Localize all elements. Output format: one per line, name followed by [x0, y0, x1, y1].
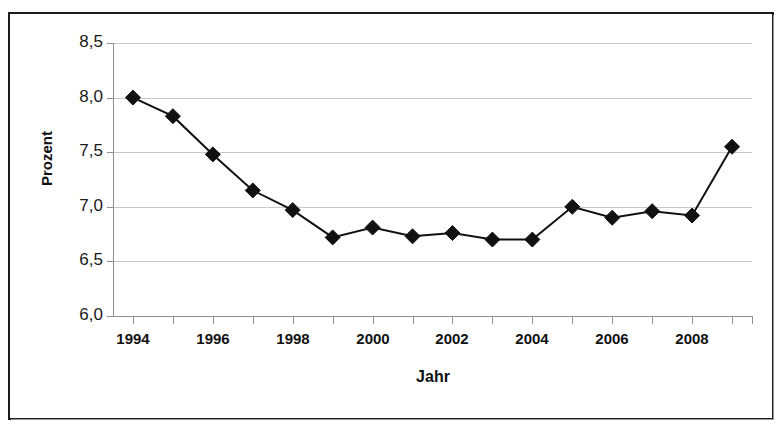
data-point-marker — [605, 210, 620, 225]
data-series-layer — [0, 0, 782, 434]
data-point-marker — [445, 226, 460, 241]
series-line — [133, 98, 732, 240]
data-point-marker — [405, 229, 420, 244]
data-point-marker — [485, 232, 500, 247]
chart-screenshot: 8,58,07,57,06,56,01994199619982000200220… — [0, 0, 782, 434]
data-point-marker — [645, 204, 660, 219]
data-point-marker — [725, 139, 740, 154]
data-point-marker — [365, 220, 380, 235]
data-point-marker — [285, 203, 300, 218]
data-point-marker — [325, 230, 340, 245]
data-point-marker — [685, 208, 700, 223]
data-point-marker — [125, 90, 140, 105]
